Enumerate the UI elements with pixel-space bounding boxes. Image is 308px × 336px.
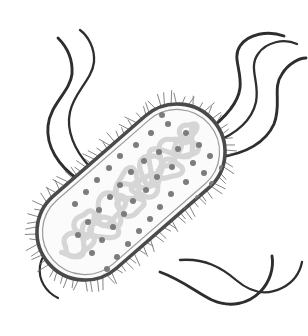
ribosome — [207, 153, 213, 159]
flagellum-tr-2 — [213, 41, 297, 143]
ribosome — [196, 142, 202, 148]
ribosome — [190, 160, 196, 166]
ribosome — [72, 201, 78, 207]
pilus — [136, 113, 141, 118]
ribosome — [125, 241, 131, 247]
pilus — [63, 278, 67, 288]
pilus — [57, 177, 68, 182]
pilus — [54, 272, 57, 280]
pilus — [143, 246, 147, 256]
ribosome — [94, 177, 100, 183]
illustration-canvas: Prokaryotic Cell (Bacterium) — [0, 0, 308, 336]
pilus — [86, 281, 88, 291]
pilus — [83, 154, 94, 159]
ribosome — [156, 149, 162, 155]
ribosome — [141, 158, 147, 164]
flagella-left — [48, 30, 94, 180]
ribosome — [128, 269, 134, 275]
flagellum-br-1 — [180, 260, 302, 292]
bacterium-illustration: Prokaryotic Cell (Bacterium) — [0, 0, 308, 336]
ribosome — [75, 232, 81, 238]
ribosome — [104, 266, 110, 272]
pilus — [32, 251, 40, 256]
ribosome — [107, 194, 113, 200]
pilus — [212, 187, 222, 194]
ribosome — [169, 164, 175, 170]
pilus — [122, 128, 124, 134]
pilus — [182, 97, 185, 103]
ribosome — [139, 258, 145, 264]
ribosome — [147, 216, 153, 222]
ribosome — [117, 278, 123, 284]
pilus — [97, 148, 103, 152]
pilus — [50, 270, 54, 277]
pilus — [181, 213, 185, 218]
ribosome — [106, 165, 112, 171]
ribosome — [121, 211, 127, 217]
ribosome — [159, 112, 165, 118]
ribosome — [110, 224, 116, 230]
ribosome — [96, 207, 102, 213]
ribosome — [175, 146, 181, 152]
ribosome — [136, 228, 142, 234]
ribosome — [130, 198, 136, 204]
pilus — [112, 273, 117, 283]
pilus — [27, 222, 37, 223]
pilus — [190, 206, 195, 216]
ribosome — [114, 254, 120, 260]
ribosome — [133, 142, 139, 148]
pilus — [88, 151, 98, 156]
flagellum-tr-1 — [206, 33, 284, 132]
ribosome — [128, 169, 134, 175]
pilus — [215, 183, 226, 188]
pilus — [130, 258, 136, 263]
ribosome — [168, 191, 174, 197]
pilus — [224, 167, 234, 174]
pilus — [199, 103, 202, 109]
ribosome — [187, 233, 193, 239]
pilus — [107, 133, 115, 142]
ribosome — [206, 205, 212, 211]
pilus — [220, 124, 227, 128]
pilus — [121, 265, 125, 271]
pilus — [223, 129, 229, 134]
ribosome — [85, 219, 91, 225]
pilus — [41, 193, 47, 202]
pilus — [125, 117, 136, 122]
ribosome — [148, 130, 154, 136]
flagellum-br-2 — [160, 256, 273, 304]
ribosome — [175, 244, 181, 250]
ribosome — [154, 174, 160, 180]
ribosome — [195, 220, 201, 226]
pilus — [53, 180, 64, 186]
pilus — [159, 232, 166, 238]
ribosome — [165, 121, 171, 127]
pilus — [97, 279, 98, 291]
pilus — [26, 227, 37, 229]
pilus — [30, 239, 37, 240]
pilus — [204, 103, 214, 111]
pilus — [146, 103, 149, 112]
pilus — [225, 162, 233, 167]
pilus — [144, 107, 146, 115]
pilus — [116, 131, 119, 138]
ribosome — [99, 237, 105, 243]
pilus — [185, 210, 192, 219]
flagellum-l-2 — [48, 38, 79, 180]
pilus — [134, 254, 139, 266]
pilus — [126, 261, 134, 269]
pilus — [75, 167, 80, 171]
pilus — [74, 281, 79, 290]
ribosome — [157, 204, 163, 210]
ribosome — [163, 255, 169, 261]
pilus — [72, 280, 73, 288]
ribosome — [117, 153, 123, 159]
pilus — [26, 244, 37, 250]
pilus — [28, 214, 38, 217]
ribosome — [183, 130, 189, 136]
pilus — [117, 269, 123, 272]
ribosome — [89, 250, 95, 256]
pilus — [32, 255, 42, 259]
pilus — [119, 124, 128, 129]
pilus — [226, 150, 237, 151]
